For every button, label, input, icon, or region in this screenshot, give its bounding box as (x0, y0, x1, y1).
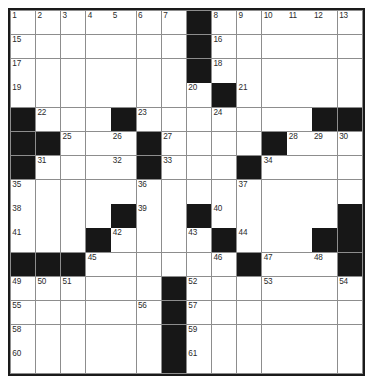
crossword-open-cell[interactable]: 13 (338, 11, 362, 34)
crossword-open-cell[interactable]: 55 (11, 301, 35, 324)
crossword-open-cell[interactable] (137, 253, 161, 276)
crossword-open-cell[interactable] (86, 180, 110, 203)
crossword-open-cell[interactable] (287, 325, 311, 348)
crossword-open-cell[interactable] (312, 83, 336, 106)
crossword-open-cell[interactable]: 53 (262, 277, 286, 300)
crossword-open-cell[interactable] (312, 204, 336, 227)
crossword-open-cell[interactable] (262, 83, 286, 106)
crossword-open-cell[interactable] (262, 204, 286, 227)
crossword-open-cell[interactable] (86, 35, 110, 58)
crossword-open-cell[interactable] (262, 349, 286, 372)
crossword-open-cell[interactable] (111, 83, 135, 106)
crossword-open-cell[interactable] (187, 180, 211, 203)
crossword-open-cell[interactable] (111, 35, 135, 58)
crossword-open-cell[interactable]: 8 (212, 11, 236, 34)
crossword-open-cell[interactable]: 51 (61, 277, 85, 300)
crossword-open-cell[interactable] (212, 132, 236, 155)
crossword-open-cell[interactable]: 54 (338, 277, 362, 300)
crossword-open-cell[interactable] (312, 325, 336, 348)
crossword-open-cell[interactable] (86, 132, 110, 155)
crossword-open-cell[interactable] (162, 59, 186, 82)
crossword-open-cell[interactable] (61, 59, 85, 82)
crossword-open-cell[interactable]: 39 (137, 204, 161, 227)
crossword-open-cell[interactable] (312, 180, 336, 203)
crossword-open-cell[interactable] (237, 325, 261, 348)
crossword-open-cell[interactable] (338, 35, 362, 58)
crossword-open-cell[interactable] (111, 277, 135, 300)
crossword-open-cell[interactable] (111, 253, 135, 276)
crossword-open-cell[interactable]: 1 (11, 11, 35, 34)
crossword-open-cell[interactable] (237, 301, 261, 324)
crossword-open-cell[interactable]: 26 (111, 132, 135, 155)
crossword-open-cell[interactable] (287, 204, 311, 227)
crossword-open-cell[interactable] (262, 325, 286, 348)
crossword-open-cell[interactable] (162, 228, 186, 251)
crossword-open-cell[interactable] (212, 277, 236, 300)
crossword-open-cell[interactable] (36, 325, 60, 348)
crossword-open-cell[interactable]: 52 (187, 277, 211, 300)
crossword-open-cell[interactable] (212, 301, 236, 324)
crossword-open-cell[interactable]: 27 (162, 132, 186, 155)
crossword-open-cell[interactable]: 9 (237, 11, 261, 34)
crossword-open-cell[interactable] (237, 349, 261, 372)
crossword-open-cell[interactable] (312, 277, 336, 300)
crossword-open-cell[interactable] (61, 108, 85, 131)
crossword-open-cell[interactable]: 18 (212, 59, 236, 82)
crossword-open-cell[interactable] (137, 349, 161, 372)
crossword-open-cell[interactable] (287, 83, 311, 106)
crossword-open-cell[interactable] (262, 59, 286, 82)
crossword-open-cell[interactable]: 7 (162, 11, 186, 34)
crossword-open-cell[interactable]: 45 (86, 253, 110, 276)
crossword-open-cell[interactable] (111, 180, 135, 203)
crossword-open-cell[interactable] (36, 59, 60, 82)
crossword-open-cell[interactable] (86, 301, 110, 324)
crossword-open-cell[interactable]: 29 (312, 132, 336, 155)
crossword-open-cell[interactable]: 33 (162, 156, 186, 179)
crossword-open-cell[interactable] (287, 349, 311, 372)
crossword-open-cell[interactable] (111, 349, 135, 372)
crossword-open-cell[interactable] (212, 180, 236, 203)
crossword-open-cell[interactable]: 23 (137, 108, 161, 131)
crossword-open-cell[interactable]: 25 (61, 132, 85, 155)
crossword-open-cell[interactable] (287, 156, 311, 179)
crossword-open-cell[interactable]: 20 (187, 83, 211, 106)
crossword-open-cell[interactable]: 37 (237, 180, 261, 203)
crossword-open-cell[interactable] (187, 156, 211, 179)
crossword-grid[interactable]: 1234567891011121315161718192021222324252… (8, 8, 365, 376)
crossword-open-cell[interactable]: 4 (86, 11, 110, 34)
crossword-open-cell[interactable] (86, 277, 110, 300)
crossword-open-cell[interactable] (61, 180, 85, 203)
crossword-open-cell[interactable]: 34 (262, 156, 286, 179)
crossword-open-cell[interactable]: 57 (187, 301, 211, 324)
crossword-open-cell[interactable]: 50 (36, 277, 60, 300)
crossword-open-cell[interactable]: 2 (36, 11, 60, 34)
crossword-open-cell[interactable]: 61 (187, 349, 211, 372)
crossword-open-cell[interactable]: 22 (36, 108, 60, 131)
crossword-open-cell[interactable] (86, 108, 110, 131)
crossword-open-cell[interactable] (262, 301, 286, 324)
crossword-open-cell[interactable]: 6 (137, 11, 161, 34)
crossword-open-cell[interactable] (312, 59, 336, 82)
crossword-open-cell[interactable]: 11 (287, 11, 311, 34)
crossword-open-cell[interactable] (312, 35, 336, 58)
crossword-open-cell[interactable] (237, 132, 261, 155)
crossword-open-cell[interactable]: 38 (11, 204, 35, 227)
crossword-open-cell[interactable] (187, 132, 211, 155)
crossword-open-cell[interactable] (212, 156, 236, 179)
crossword-open-cell[interactable] (237, 277, 261, 300)
crossword-open-cell[interactable]: 3 (61, 11, 85, 34)
crossword-open-cell[interactable] (312, 301, 336, 324)
crossword-open-cell[interactable] (237, 59, 261, 82)
crossword-open-cell[interactable] (61, 349, 85, 372)
crossword-open-cell[interactable]: 31 (36, 156, 60, 179)
crossword-open-cell[interactable]: 15 (11, 35, 35, 58)
crossword-open-cell[interactable] (36, 35, 60, 58)
crossword-open-cell[interactable] (36, 83, 60, 106)
crossword-open-cell[interactable] (262, 108, 286, 131)
crossword-open-cell[interactable]: 60 (11, 349, 35, 372)
crossword-open-cell[interactable]: 36 (137, 180, 161, 203)
crossword-open-cell[interactable] (287, 108, 311, 131)
crossword-open-cell[interactable] (187, 108, 211, 131)
crossword-open-cell[interactable] (36, 228, 60, 251)
crossword-open-cell[interactable] (262, 35, 286, 58)
